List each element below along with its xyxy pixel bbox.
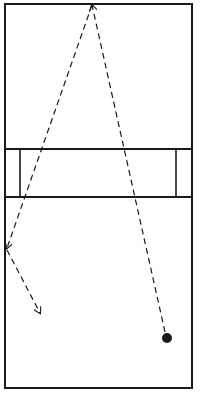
ball-to-front-wall-path [92, 5, 165, 332]
side-wall-rebound-path [7, 250, 40, 313]
ball-icon [162, 333, 172, 343]
court-diagram [0, 0, 200, 398]
front-wall-to-side-wall-path [7, 5, 92, 248]
shot-paths [7, 5, 165, 332]
